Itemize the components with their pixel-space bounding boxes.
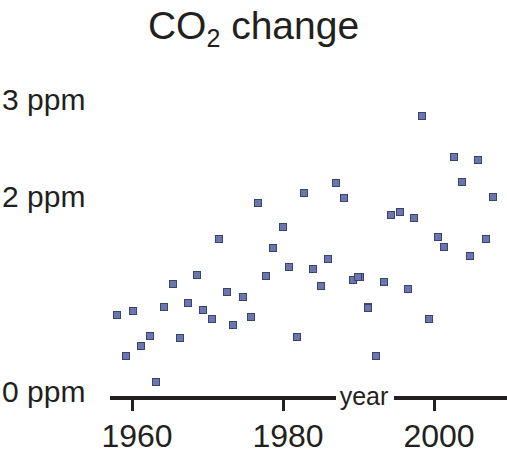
data-point: [410, 214, 418, 222]
data-point: [176, 334, 184, 342]
data-point: [380, 278, 388, 286]
data-point: [372, 352, 380, 360]
data-point: [208, 315, 216, 323]
data-point: [309, 265, 317, 273]
data-point: [418, 112, 426, 120]
data-point: [184, 299, 192, 307]
data-point: [193, 271, 201, 279]
data-point: [332, 179, 340, 187]
chart-figure: CO2 change 3 ppm2 ppm0 ppm 196019802000 …: [0, 0, 507, 458]
data-point: [425, 315, 433, 323]
data-point: [229, 321, 237, 329]
data-point: [223, 288, 231, 296]
data-point: [137, 342, 145, 350]
data-point: [450, 153, 458, 161]
data-point: [364, 304, 372, 312]
data-point: [466, 252, 474, 260]
data-point: [474, 156, 482, 164]
data-point: [215, 235, 223, 243]
scatter-plot-area: [0, 0, 507, 458]
data-point: [324, 255, 332, 263]
data-point: [482, 235, 490, 243]
data-point: [404, 285, 412, 293]
data-point: [340, 194, 348, 202]
data-point: [146, 332, 154, 340]
data-point: [387, 211, 395, 219]
data-point: [434, 233, 442, 241]
data-point: [122, 352, 130, 360]
data-point: [279, 223, 287, 231]
data-point: [458, 178, 466, 186]
data-point: [317, 282, 325, 290]
data-point: [254, 199, 262, 207]
data-point: [396, 208, 404, 216]
data-point: [169, 280, 177, 288]
data-point: [262, 272, 270, 280]
data-point: [113, 311, 121, 319]
data-point: [285, 263, 293, 271]
data-point: [440, 243, 448, 251]
data-point: [239, 293, 247, 301]
data-point: [129, 307, 137, 315]
data-point: [199, 306, 207, 314]
data-point: [269, 244, 277, 252]
data-point: [160, 303, 168, 311]
data-point: [247, 313, 255, 321]
data-point: [354, 273, 362, 281]
data-point: [489, 193, 497, 201]
data-point: [300, 189, 308, 197]
data-point: [152, 378, 160, 386]
data-point: [293, 333, 301, 341]
